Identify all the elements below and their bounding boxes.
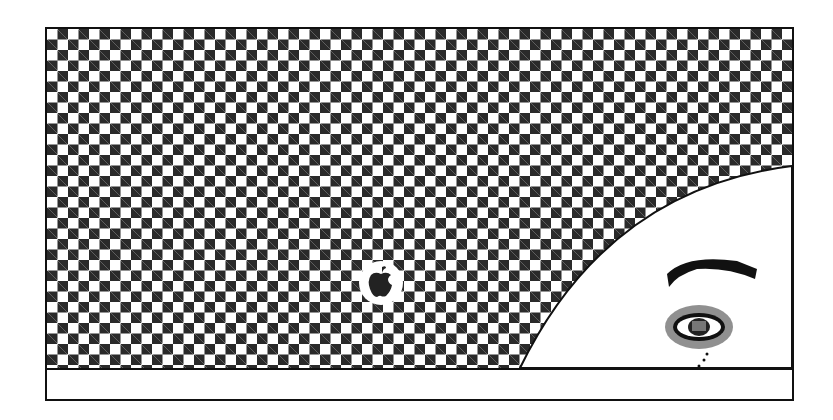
apple-logo-icon	[367, 265, 395, 299]
face-illustration-icon	[47, 29, 792, 370]
screen-frame	[45, 27, 794, 401]
status-strip	[47, 370, 792, 399]
